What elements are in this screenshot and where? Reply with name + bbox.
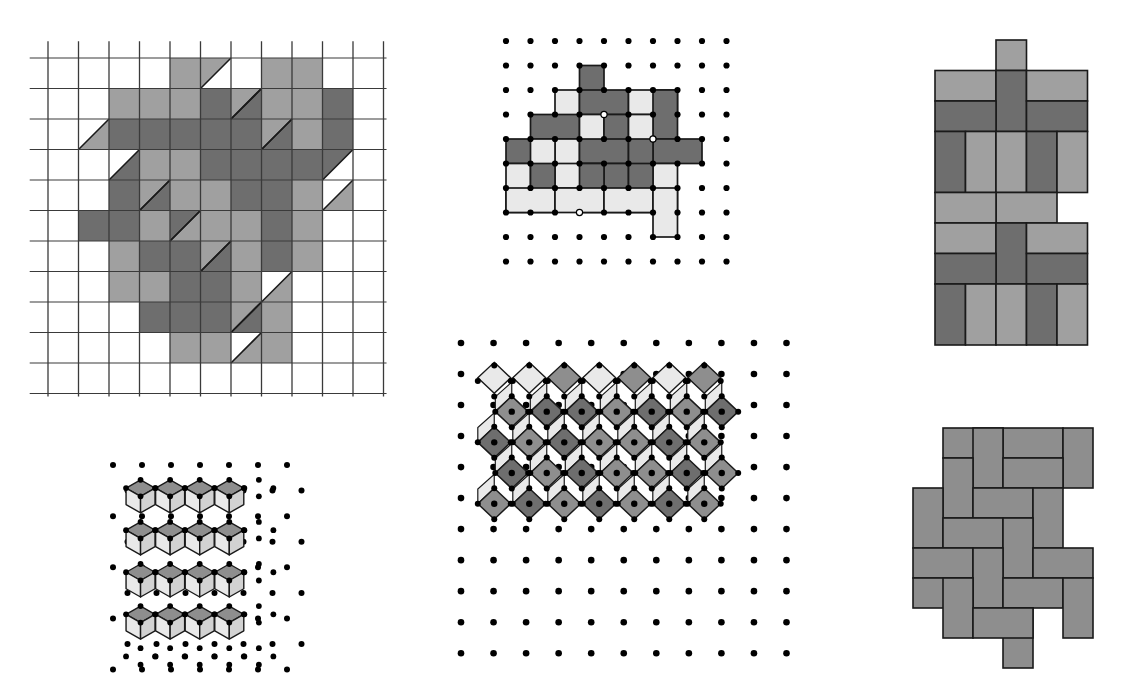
- lattice-dot: [674, 38, 680, 44]
- tiling-vertex: [526, 455, 532, 461]
- grid-cell: [201, 119, 232, 150]
- tiling-vertex: [631, 362, 637, 368]
- tiling-vertex: [667, 470, 673, 476]
- tiling-vertex: [226, 620, 232, 626]
- grid-cell: [140, 241, 171, 272]
- lattice-dot: [523, 588, 530, 595]
- diamond-centre-dot: [701, 439, 707, 445]
- grid-cell: [292, 150, 323, 181]
- tiling-vertex: [491, 516, 497, 522]
- tiling-vertex: [182, 527, 188, 533]
- lattice-dot: [625, 111, 631, 117]
- lattice-dot: [723, 160, 729, 166]
- grid-cell: [262, 302, 293, 333]
- lattice-dot: [686, 650, 693, 657]
- brick-tile: [1003, 578, 1063, 608]
- lattice-dot: [503, 38, 509, 44]
- lattice-dot: [490, 650, 497, 657]
- lozenge-layer: [478, 362, 738, 519]
- lattice-dot: [523, 526, 530, 533]
- tiling-vertex: [631, 455, 637, 461]
- lattice-dot: [503, 209, 509, 215]
- tiling-vertex: [197, 493, 203, 499]
- tiling-vertex: [649, 393, 655, 399]
- lattice-dot: [527, 38, 533, 44]
- lattice-dot: [555, 557, 562, 564]
- tiling-vertex: [475, 378, 481, 384]
- brick-tile: [996, 71, 1027, 132]
- tiling-vertex: [197, 536, 203, 542]
- lattice-dot: [458, 495, 465, 502]
- tiling-vertex: [212, 654, 218, 660]
- brick-tile: [1063, 578, 1093, 638]
- lattice-dot: [503, 111, 509, 117]
- grid-cell: [262, 150, 293, 181]
- tiling-vertex: [526, 516, 532, 522]
- tiling-vertex: [492, 470, 498, 476]
- grid-cell: [262, 241, 293, 272]
- tiling-vertex: [718, 501, 724, 507]
- lattice-dot: [686, 526, 693, 533]
- lattice-dot: [650, 185, 656, 191]
- brick-tile: [943, 458, 973, 518]
- lattice-dot: [503, 87, 509, 93]
- tiling-vertex: [256, 662, 262, 668]
- lattice-dot: [458, 526, 465, 533]
- tiling-vertex: [544, 486, 550, 492]
- brick-tile: [935, 254, 996, 285]
- lattice-dot: [625, 234, 631, 240]
- lattice-dot: [523, 619, 530, 626]
- grid-cell: [109, 119, 140, 150]
- lattice-dot: [686, 340, 693, 347]
- tiling-vertex: [153, 527, 159, 533]
- tiling-vertex: [491, 424, 497, 430]
- grid-cell: [170, 241, 201, 272]
- lattice-dot: [139, 462, 145, 468]
- tiling-vertex: [509, 486, 515, 492]
- tiling-vertex: [270, 611, 276, 617]
- brick-tile: [935, 223, 996, 254]
- lattice-dot: [783, 371, 790, 378]
- brick-tile: [943, 518, 1003, 548]
- lattice-dot: [255, 667, 261, 673]
- lattice-dot: [458, 371, 465, 378]
- diamond-centre-dot: [561, 501, 567, 507]
- lattice-dot: [576, 136, 582, 142]
- lattice-dot: [674, 160, 680, 166]
- lattice-dot: [299, 488, 305, 494]
- lattice-dot: [458, 619, 465, 626]
- tiling-vertex: [167, 645, 173, 651]
- tiling-vertex: [167, 536, 173, 542]
- brick-tile: [913, 548, 973, 578]
- lattice-dot: [783, 340, 790, 347]
- tiling-vertex: [182, 569, 188, 575]
- lattice-dot: [674, 185, 680, 191]
- tiling-vertex: [509, 424, 515, 430]
- lattice-dot: [255, 462, 261, 468]
- diamond-centre-dot: [526, 439, 532, 445]
- tiling-vertex: [167, 561, 173, 567]
- lattice-dot: [168, 462, 174, 468]
- tiling-vertex: [631, 516, 637, 522]
- lattice-dot: [284, 564, 290, 570]
- tiling-vertex: [631, 393, 637, 399]
- lattice-dot: [576, 160, 582, 166]
- tiling-vertex: [138, 662, 144, 668]
- lattice-dot: [718, 526, 725, 533]
- tiling-vertex: [256, 536, 262, 542]
- tiling-vertex: [614, 455, 620, 461]
- tiling-vertex: [597, 409, 603, 415]
- brick-tile: [996, 40, 1027, 71]
- lattice-dot: [783, 464, 790, 471]
- brick-layer: [913, 428, 1093, 668]
- grid-cell: [170, 333, 201, 364]
- grid-cell: [109, 89, 140, 120]
- lattice-dot: [576, 111, 582, 117]
- grid-cell: [292, 180, 323, 211]
- lattice-dot: [650, 258, 656, 264]
- diamond-centre-dot: [596, 501, 602, 507]
- lattice-dot: [555, 588, 562, 595]
- brick-tile: [935, 284, 966, 345]
- lattice-dot: [625, 185, 631, 191]
- brick-tile: [935, 132, 966, 193]
